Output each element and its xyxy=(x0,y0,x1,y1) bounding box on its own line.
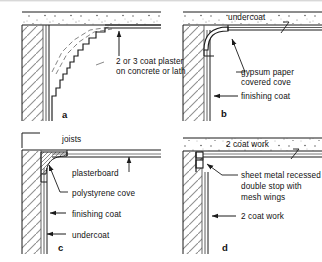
panel-d-letter: d xyxy=(222,242,228,253)
panel-c-wall-coats xyxy=(44,168,47,254)
panel-d: 2 coat work sheet metal recessed double … xyxy=(183,138,322,254)
panel-b-label-gypsum-1: gypsum paper xyxy=(241,68,294,77)
panel-b-wall xyxy=(183,25,204,121)
panel-b-cove xyxy=(204,25,228,56)
panel-a-letter: a xyxy=(62,109,68,120)
panel-c-letter: c xyxy=(58,242,63,253)
scan-artifact-top xyxy=(0,0,322,1)
panel-a-label-line2: on concrete or lath xyxy=(116,67,186,76)
panel-c-joist-bracket xyxy=(22,133,40,148)
plaster-cornice-figure: 2 or 3 coat plaster on concrete or lath … xyxy=(0,0,322,262)
panel-b-letter: b xyxy=(221,108,227,119)
panel-d-label-twocoat-bottom: 2 coat work xyxy=(241,212,285,221)
panel-d-wall-coats xyxy=(205,172,208,254)
panel-c-label-polystyrene: polystyrene cove xyxy=(72,189,135,198)
panel-c-wall xyxy=(22,150,41,254)
figure-canvas: 2 or 3 coat plaster on concrete or lath … xyxy=(0,0,322,262)
panel-a: 2 or 3 coat plaster on concrete or lath … xyxy=(22,12,186,121)
panel-d-metalstop-leader xyxy=(207,164,238,175)
panel-c: joists plasterboard polystyrene co xyxy=(22,133,161,254)
panel-c-label-plasterboard: plasterboard xyxy=(72,169,119,178)
panel-c-label-joists: joists xyxy=(61,135,81,144)
panel-c-label-undercoat: undercoat xyxy=(72,231,110,240)
panel-b-ceiling-coats xyxy=(220,28,322,31)
panel-a-ceiling-slab xyxy=(22,12,161,25)
panel-b-label-finishing: finishing coat xyxy=(241,92,291,101)
panel-a-leader-tick xyxy=(96,62,104,65)
panel-d-label-twocoat-top: 2 coat work xyxy=(226,140,270,149)
panel-d-label-sheet-2: double stop with xyxy=(241,182,302,191)
panel-d-label-sheet-1: sheet metal recessed xyxy=(241,171,321,180)
panel-c-cove-leader xyxy=(49,165,68,192)
panel-b: undercoat gypsum paper covered cove fini… xyxy=(183,12,322,121)
panel-b-label-gypsum-2: covered cove xyxy=(241,78,291,87)
panel-d-label-sheet-3: mesh wings xyxy=(241,193,285,202)
panel-c-label-finishing: finishing coat xyxy=(72,210,122,219)
panel-a-wall-plaster xyxy=(46,25,49,121)
panel-a-label-line1: 2 or 3 coat plaster xyxy=(116,57,184,66)
panel-a-wall xyxy=(22,25,43,121)
panel-b-label-undercoat: undercoat xyxy=(228,13,266,22)
panel-d-ceiling-coats xyxy=(196,154,322,157)
